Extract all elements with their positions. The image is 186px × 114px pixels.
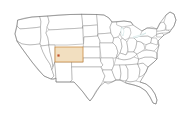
state-iowa[interactable] xyxy=(98,33,114,43)
marker-layer xyxy=(57,54,59,56)
state-arkansas[interactable] xyxy=(101,58,114,70)
state-new-mexico[interactable] xyxy=(55,62,72,82)
us-locator-map: United States locator map Colorado CO Un… xyxy=(0,0,186,114)
state-minnesota[interactable] xyxy=(97,15,112,37)
state-wyoming[interactable] xyxy=(46,28,84,45)
state-kansas[interactable] xyxy=(83,47,100,58)
state-montana[interactable] xyxy=(47,14,83,30)
state-nebraska[interactable] xyxy=(84,36,101,47)
state-florida[interactable] xyxy=(126,81,157,104)
state-washington[interactable] xyxy=(17,17,41,30)
us-map-svg xyxy=(0,0,186,114)
state-texas[interactable] xyxy=(70,67,105,101)
location-marker-icon[interactable] xyxy=(57,54,59,56)
state-idaho[interactable] xyxy=(40,16,49,46)
state-georgia[interactable] xyxy=(126,64,140,82)
